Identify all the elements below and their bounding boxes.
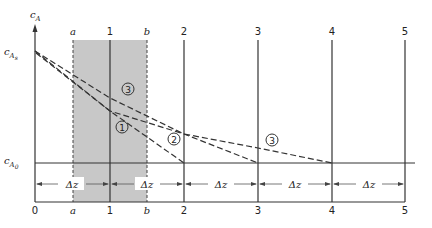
svg-text:Δz: Δz (214, 179, 228, 190)
concentration-profile-diagram: 3 1 2 3 cA cAs cA0 a 1 b 2 3 4 5 0 a 1 b… (0, 0, 432, 228)
top-label-2: 2 (181, 26, 187, 37)
bottom-label-3: 3 (255, 205, 261, 216)
delta-z-dimension-4: Δz (259, 179, 331, 190)
bottom-label-b: b (144, 205, 150, 216)
svg-text:3: 3 (269, 136, 275, 146)
top-label-1: 1 (107, 26, 113, 37)
bottom-label-a: a (70, 205, 76, 216)
delta-z-dimension-5: Δz (333, 179, 404, 190)
svg-text:Δz: Δz (140, 179, 154, 190)
svg-text:2: 2 (171, 135, 177, 145)
svg-text:3: 3 (125, 85, 131, 95)
svg-text:Δz: Δz (362, 179, 376, 190)
curve-label-2: 2 (168, 133, 180, 145)
top-label-3: 3 (255, 26, 261, 37)
bottom-label-1: 1 (107, 205, 113, 216)
delta-z-dimension-3: Δz (185, 179, 257, 190)
top-label-b: b (144, 26, 150, 37)
svg-text:Δz: Δz (288, 179, 302, 190)
svg-text:Δz: Δz (65, 179, 79, 190)
bottom-label-4: 4 (329, 205, 335, 216)
top-label-a: a (70, 26, 76, 37)
y-axis-label: cA (30, 9, 41, 23)
top-label-4: 4 (329, 26, 335, 37)
curve-label-3-lower: 3 (266, 134, 278, 146)
bottom-label-5: 5 (402, 205, 408, 216)
c-a0-label: cA0 (4, 155, 19, 170)
y-axis-arrow-icon (33, 24, 38, 32)
top-label-5: 5 (402, 26, 408, 37)
bottom-label-2: 2 (181, 205, 187, 216)
c-as-label: cAs (4, 46, 18, 61)
svg-text:1: 1 (119, 123, 125, 133)
bottom-label-0: 0 (32, 205, 38, 216)
